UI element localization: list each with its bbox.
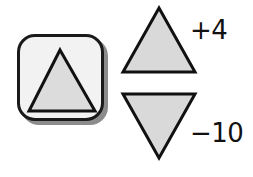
triangle-up-icon — [123, 8, 195, 72]
triangle-up-icon — [20, 37, 101, 118]
increment-arrow-button[interactable] — [120, 4, 200, 76]
increment-value-label: +4 — [190, 17, 227, 43]
decrement-arrow-button[interactable] — [120, 90, 200, 162]
decrement-value-label: −10 — [190, 120, 243, 146]
triangle-down-icon — [123, 94, 195, 158]
triangle-tool-button[interactable] — [17, 34, 104, 121]
